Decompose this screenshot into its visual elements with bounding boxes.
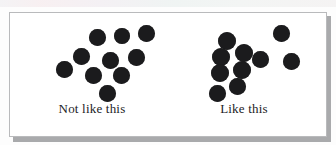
dot bbox=[235, 44, 253, 62]
dot bbox=[209, 85, 226, 102]
dot bbox=[99, 85, 116, 102]
figure-root: Not like this Like this bbox=[0, 0, 336, 157]
dot-field-not-like-this bbox=[18, 13, 166, 99]
dot bbox=[73, 48, 90, 65]
dot bbox=[252, 51, 269, 68]
dot bbox=[138, 25, 155, 42]
panel-not-like-this: Not like this bbox=[18, 13, 166, 136]
dot bbox=[89, 29, 106, 46]
scan-tint bbox=[0, 0, 336, 7]
paper-grain bbox=[0, 145, 336, 157]
dot bbox=[85, 67, 102, 84]
dot bbox=[211, 64, 229, 82]
dot bbox=[56, 61, 73, 78]
dot bbox=[229, 78, 246, 95]
dot bbox=[114, 28, 130, 44]
dot bbox=[128, 49, 145, 66]
dot-field-like-this bbox=[170, 13, 318, 99]
figure-card: Not like this Like this bbox=[9, 12, 327, 137]
dot bbox=[233, 61, 251, 79]
dot bbox=[283, 53, 300, 70]
caption-not-like-this: Not like this bbox=[18, 101, 166, 117]
dot bbox=[113, 67, 130, 84]
dot bbox=[102, 52, 119, 69]
panel-container: Not like this Like this bbox=[10, 13, 326, 136]
caption-like-this: Like this bbox=[170, 101, 318, 117]
dot bbox=[273, 25, 290, 42]
panel-like-this: Like this bbox=[170, 13, 318, 136]
